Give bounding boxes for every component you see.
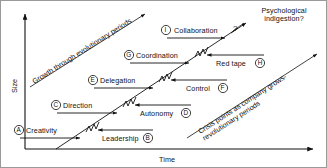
marker-letter-b: B bbox=[146, 134, 150, 142]
phase-label-autonomy: Autonomy bbox=[140, 110, 173, 118]
marker-letter-i: I bbox=[165, 26, 167, 34]
phase-label-red-tape: Red tape bbox=[216, 60, 246, 68]
phase-label-leadership: Leadership bbox=[102, 135, 139, 143]
marker-letter-g: G bbox=[126, 51, 131, 59]
marker-letter-e: E bbox=[91, 76, 95, 84]
marker-letter-c: C bbox=[53, 101, 58, 109]
marker-letter-h: H bbox=[258, 59, 263, 67]
phase-label-direction: Direction bbox=[63, 102, 92, 110]
phase-label-coordination: Coordination bbox=[136, 52, 178, 60]
marker-letter-f: F bbox=[221, 84, 225, 92]
phase-label-collaboration: Collaboration bbox=[174, 27, 218, 35]
marker-letter-a: A bbox=[17, 126, 21, 134]
phase-label-control: Control bbox=[186, 85, 210, 93]
marker-letter-d: D bbox=[184, 109, 189, 117]
question-mark-note: ? bbox=[233, 25, 238, 33]
crisis-zigzag-d bbox=[123, 97, 136, 107]
crisis-zigzag-b bbox=[86, 122, 99, 132]
greiner-growth-model-diagram: A B C D E F G H I Creativity Leadership … bbox=[0, 0, 327, 168]
phase-label-creativity: Creativity bbox=[26, 127, 57, 135]
psychological-indigestion-note: Psychological indigestion? bbox=[245, 7, 323, 23]
x-axis-label: Time bbox=[159, 156, 175, 164]
phase-label-delegation: Delegation bbox=[100, 77, 135, 85]
y-axis-label: Size bbox=[10, 79, 19, 93]
